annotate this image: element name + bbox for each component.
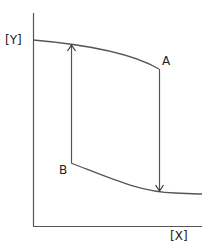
x-axis-label: [X] — [170, 230, 188, 242]
cycle-diagram — [0, 0, 221, 252]
upper-curve — [33, 40, 159, 69]
lower-curve — [71, 163, 202, 194]
point-a-label: A — [162, 55, 170, 67]
y-axis-label: [Y] — [5, 34, 22, 46]
point-b-label: B — [59, 164, 67, 176]
